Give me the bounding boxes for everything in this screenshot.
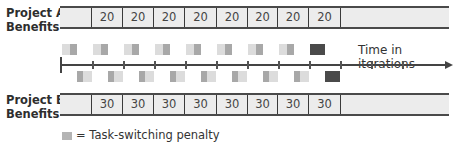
project-b-label-line2: Benefits [6,107,65,121]
project-b-cell: 30 [91,95,122,114]
penalty-block-b [263,71,278,82]
legend-text: = Task-switching penalty [76,128,220,142]
penalty-block-a [186,44,201,55]
penalty-block-b [294,71,309,82]
timeline-tick [371,61,373,69]
penalty-block-a [62,44,77,55]
penalty-block-a [217,44,232,55]
timeline-tick [154,61,156,69]
project-a-label-line1: Project A [6,6,65,20]
project-b-cell: 30 [153,95,184,114]
timeline-arrow-icon [445,61,453,69]
penalty-swatch-icon [62,132,72,140]
penalty-block-a [248,44,263,55]
penalty-block-a [124,44,139,55]
timeline-tick [185,61,187,69]
project-b-cell: 30 [122,95,153,114]
project-b-label: Project B Benefits [6,93,65,121]
penalty-block-a [155,44,170,55]
timeline-tick [340,61,342,69]
timeline-tick [247,61,249,69]
project-b-cell: 30 [184,95,216,114]
timeline-tick [216,61,218,69]
timeline-tick [278,61,280,69]
legend: = Task-switching penalty [62,128,220,142]
penalty-block-a [93,44,108,55]
project-b-cell: 30 [277,95,308,114]
project-a-cell: 20 [216,8,247,27]
penalty-block-b [232,71,247,82]
penalty-block-b [201,71,216,82]
timeline-tick [402,61,404,69]
project-a-cell [60,8,91,27]
project-a-cell: 20 [153,8,184,27]
project-a-label-line2: Benefits [6,20,65,34]
penalty-block-a [279,44,294,55]
timeline-tick [123,61,125,69]
project-a-label: Project A Benefits [6,6,65,34]
timeline-axis [61,64,447,66]
project-b-label-line1: Project B [6,93,65,107]
timeline-title: Time in iterations [358,43,457,71]
project-a-benefits-bar: 20 20 20 20 20 20 20 20 [60,6,449,29]
timeline-tick [92,61,94,69]
project-b-cell: 30 [308,95,341,114]
project-b-cell: 30 [216,95,247,114]
project-a-cell: 20 [184,8,216,27]
project-b-cell [60,95,91,114]
project-a-cell: 20 [277,8,308,27]
penalty-block-b [139,71,154,82]
final-block-a [310,44,325,55]
penalty-block-b [77,71,92,82]
timeline-tick [309,61,311,69]
project-a-cell: 20 [308,8,341,27]
penalty-block-b [108,71,123,82]
penalty-block-b [170,71,185,82]
project-a-cell: 20 [91,8,122,27]
project-b-benefits-bar: 30 30 30 30 30 30 30 30 [60,93,449,116]
project-a-cell: 20 [247,8,277,27]
project-b-cell: 30 [247,95,277,114]
final-block-b [325,71,340,82]
project-a-cell: 20 [122,8,153,27]
